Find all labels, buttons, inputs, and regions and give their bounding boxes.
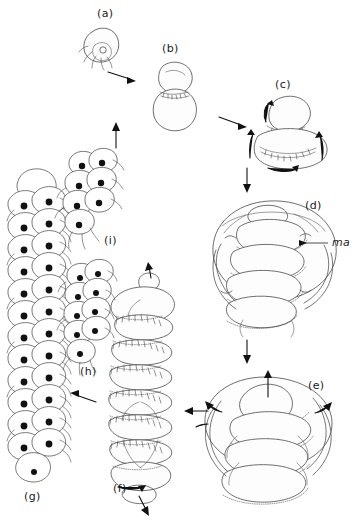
arrow-b-to-c: [219, 117, 247, 130]
panel-b-drawing: [153, 62, 196, 131]
figure-panel-sequence: (a) (b) (c) (d) (e) (f) (g) (h) (i) ma: [0, 0, 357, 521]
panel-a-drawing: [79, 28, 119, 70]
panel-label-i: (i): [104, 234, 117, 247]
annotation-ma-label: ma: [332, 236, 350, 249]
panel-label-g: (g): [24, 490, 41, 503]
panel-label-b: (b): [162, 42, 179, 55]
arrow-d-to-e: [243, 340, 251, 364]
panel-label-a: (a): [97, 7, 114, 20]
arrow-e-to-f: [184, 407, 208, 415]
arrow-f-to-g: [70, 390, 96, 402]
panel-d-drawing: [213, 201, 336, 337]
arrow-h-to-i: [112, 122, 120, 148]
figure-drawing: [0, 0, 357, 521]
panel-label-h: (h): [80, 365, 97, 378]
arrow-a-to-b: [108, 72, 136, 84]
panel-label-f: (f): [113, 482, 127, 495]
panel-g-drawing: [7, 169, 71, 482]
panel-label-e: (e): [308, 379, 325, 392]
panel-f-drawing: [109, 262, 175, 516]
panel-label-d: (d): [305, 199, 322, 212]
panel-c-drawing: [247, 96, 327, 172]
panel-label-c: (c): [275, 78, 291, 91]
arrow-c-to-d: [243, 168, 251, 193]
